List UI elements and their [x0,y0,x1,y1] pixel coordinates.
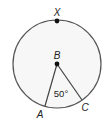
label-a: A [36,109,44,120]
label-c: C [81,102,89,113]
point-b [55,62,60,67]
angle-label: 50° [54,88,69,99]
point-x [55,19,60,24]
label-b: B [54,50,61,61]
label-x: X [53,7,61,18]
circle-diagram: X B A C 50° [0,0,112,125]
